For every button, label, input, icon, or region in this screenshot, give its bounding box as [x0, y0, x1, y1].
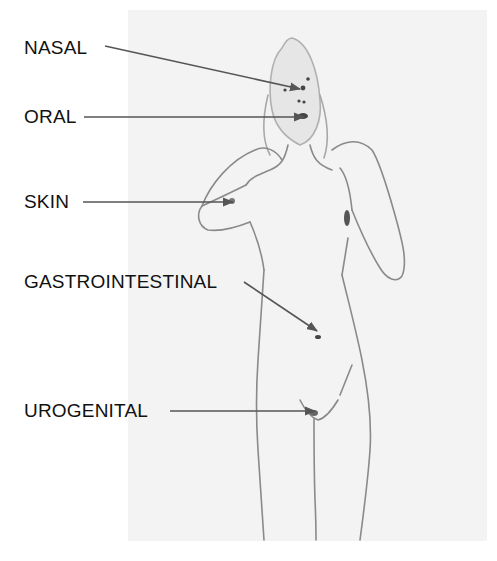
gastrointestinal-arrow	[244, 282, 317, 331]
label-urogenital: UROGENITAL	[24, 401, 148, 420]
nasal-arrow	[105, 46, 300, 89]
label-gastrointestinal: GASTROINTESTINAL	[24, 272, 217, 291]
nasal-hotspot	[301, 86, 306, 91]
oral-hotspot	[298, 113, 308, 119]
label-skin: SKIN	[24, 192, 69, 211]
label-oral: ORAL	[24, 107, 77, 126]
skin-hotspot	[229, 198, 235, 204]
gastrointestinal-hotspot	[315, 335, 321, 339]
label-nasal: NASAL	[24, 38, 87, 57]
